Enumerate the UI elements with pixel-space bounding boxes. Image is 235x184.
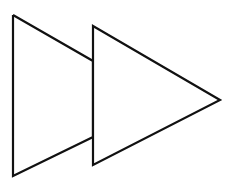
fast-forward-canvas (0, 0, 235, 184)
front-triangle-shape (93, 26, 220, 165)
back-triangle-shape (13, 15, 93, 176)
fast-forward-icon (0, 0, 235, 184)
